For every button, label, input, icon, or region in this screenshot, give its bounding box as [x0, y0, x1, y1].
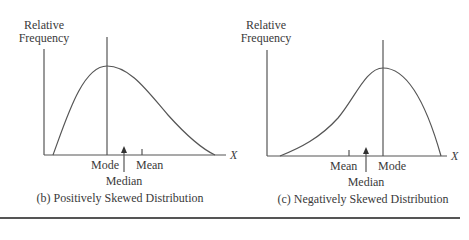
panel-b-median-label: Median — [99, 175, 149, 188]
panel-b-mode-label: Mode — [91, 159, 119, 172]
panel-b-x-label: X — [230, 149, 237, 162]
panel-b-graphics — [44, 37, 226, 172]
panel-c-median-label: Median — [341, 176, 391, 189]
panel-c-graphics — [267, 40, 447, 172]
panel-c-mean-label: Mean — [330, 160, 357, 173]
panel-c-mode-label: Mode — [378, 160, 406, 173]
panel-b-caption: (b) Positively Skewed Distribution — [20, 192, 220, 205]
panel-c-x-label: X — [451, 150, 458, 163]
panel-b-mean-label: Mean — [136, 159, 163, 172]
panel-b-median-arrow-head — [121, 146, 127, 153]
bottom-divider — [0, 217, 460, 219]
panel-c-median-arrow-head — [363, 147, 369, 154]
panel-b-curve — [53, 66, 215, 155]
panel-c-y-label-line2: Frequency — [236, 32, 296, 45]
panel-c-curve — [280, 68, 441, 156]
panel-c-caption: (c) Negatively Skewed Distribution — [268, 193, 458, 206]
panel-b-y-label-line2: Frequency — [14, 32, 74, 45]
